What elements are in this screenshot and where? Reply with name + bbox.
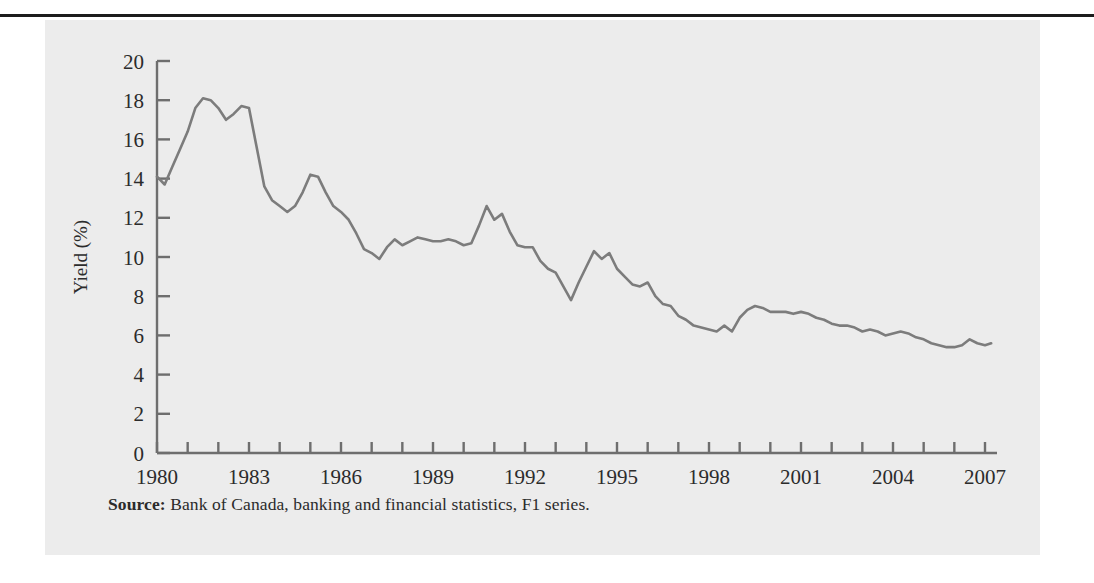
x-axis-tick-label: 2007	[964, 465, 1006, 489]
caption-body: Bank of Canada, banking and financial st…	[166, 494, 590, 514]
y-axis-tick-label: 2	[134, 402, 145, 426]
y-axis-tick-label: 20	[123, 50, 144, 74]
data-series-line	[157, 98, 991, 347]
x-axis-tick-label: 2004	[872, 465, 915, 489]
x-axis-tick-label: 1983	[228, 465, 270, 489]
y-axis-tick-label: 14	[123, 167, 145, 191]
x-axis-tick-label: 1992	[504, 465, 546, 489]
x-axis-tick-label: 1998	[688, 465, 730, 489]
y-axis-tick-label: 18	[123, 89, 144, 113]
x-axis-tick-label: 2001	[780, 465, 822, 489]
x-axis-tick-label: 1980	[136, 465, 178, 489]
y-axis-tick-label: 8	[134, 285, 145, 309]
x-axis-tick-label: 1986	[320, 465, 362, 489]
caption-label: Source:	[108, 494, 166, 514]
y-axis-tick-label: 10	[123, 246, 144, 270]
top-horizontal-rule	[0, 14, 1094, 17]
y-axis-tick-label: 12	[123, 206, 144, 230]
yield-line-chart: 0246810121416182019801983198619891992199…	[45, 20, 1040, 555]
figure-source-caption: Source: Bank of Canada, banking and fina…	[108, 494, 988, 515]
y-axis-tick-label: 6	[134, 324, 145, 348]
x-axis-tick-label: 1995	[596, 465, 638, 489]
y-axis-tick-label: 0	[134, 442, 145, 466]
y-axis-title: Yield (%)	[70, 220, 92, 294]
x-axis-tick-label: 1989	[412, 465, 454, 489]
y-axis-tick-label: 16	[123, 128, 144, 152]
y-axis-tick-label: 4	[134, 363, 145, 387]
figure-container: 0246810121416182019801983198619891992199…	[0, 0, 1094, 583]
